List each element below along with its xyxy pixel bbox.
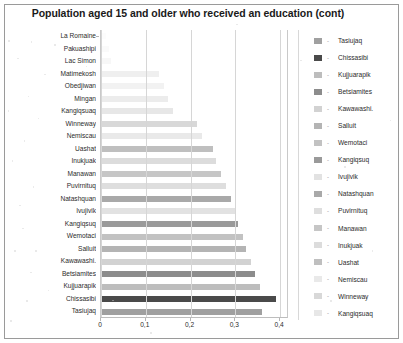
scan-noise-speckle: [35, 250, 37, 252]
bar-betsiamites[interactable]: [101, 271, 255, 277]
y-axis-label-wemotaci: Wemotaci: [22, 230, 96, 243]
x-axis-tick-label: 0: [98, 321, 102, 328]
legend-label: Uashat: [338, 259, 359, 266]
bar-row: [101, 305, 287, 318]
legend-dash-marker: -: [325, 225, 331, 231]
bar-kawawashi[interactable]: [101, 259, 251, 265]
bar-row: [101, 193, 287, 206]
legend-item-nemiscau[interactable]: -Nemiscau: [300, 271, 398, 288]
scan-noise-speckle: [92, 210, 94, 211]
scan-noise-speckle: [372, 250, 373, 252]
legend-item-inukjuak[interactable]: -Inukjuak: [300, 237, 398, 254]
legend-item-kawawashi[interactable]: -Kawawashi.: [300, 100, 398, 117]
legend-item-kangiqsuaq[interactable]: -Kangiqsuaq: [300, 305, 398, 322]
legend-item-salluit[interactable]: -Salluit: [300, 117, 398, 134]
legend-item-tasiujaq[interactable]: -Tasiujaq: [300, 32, 398, 49]
legend-dash-marker: -: [325, 208, 331, 214]
legend-color-swatch: [314, 191, 322, 197]
bar-row: [101, 218, 287, 231]
scan-noise-speckle: [28, 96, 29, 97]
y-axis-label-kujjuarapik: Kujjuarapik: [22, 280, 96, 293]
scan-noise-speckle: [330, 300, 332, 302]
scan-noise-speckle: [70, 132, 71, 134]
y-axis-label-uashat: Uashat: [22, 143, 96, 156]
legend-item-wemotaci[interactable]: -Wemotaci: [300, 134, 398, 151]
legend-label: Salluit: [338, 122, 356, 129]
bar-mingan[interactable]: [101, 96, 168, 102]
bar-kangiqsuaq[interactable]: [101, 108, 173, 114]
y-axis-label-tasiujaq: Tasiujaq: [22, 305, 96, 318]
bar-wemotaci[interactable]: [101, 234, 243, 240]
gridline-0-4: [280, 30, 281, 317]
bar-matimekosh[interactable]: [101, 71, 159, 77]
legend-color-swatch: [314, 225, 322, 231]
legend-item-natashquan[interactable]: -Natashquan: [300, 185, 398, 202]
bar-row: [101, 155, 287, 168]
bar-pakuashipi[interactable]: [101, 46, 109, 52]
plot-area: [100, 30, 288, 318]
legend-label: Kangiqsuq: [338, 156, 369, 163]
y-axis-label-nemiscau: Nemiscau: [22, 130, 96, 143]
bar-tasiujaq[interactable]: [101, 309, 262, 315]
legend-label: Natashquan: [338, 190, 374, 197]
legend-item-manawan[interactable]: -Manawan: [300, 220, 398, 237]
legend-item-winneway[interactable]: -Winneway: [300, 288, 398, 305]
legend-divider: [298, 30, 299, 320]
bar-winneway[interactable]: [101, 121, 197, 127]
bar-row: [101, 93, 287, 106]
x-axis-tick-label: 0,2: [185, 321, 194, 328]
y-axis-label-la-romaine: La Romaine: [22, 30, 96, 43]
legend-dash-marker: -: [325, 259, 331, 265]
scan-noise-speckle: [300, 60, 302, 61]
legend-item-puvirnituq[interactable]: -Puvirnituq: [300, 202, 398, 219]
scan-noise-speckle: [33, 186, 34, 188]
legend-color-swatch: [314, 310, 322, 316]
legend-item-betsiamites[interactable]: -Betsiamites: [300, 83, 398, 100]
legend-dash-marker: -: [325, 55, 331, 61]
gridline-0-2: [191, 30, 192, 317]
bar-manawan[interactable]: [101, 171, 221, 177]
bar-uashat[interactable]: [101, 146, 213, 152]
bar-salluit[interactable]: [101, 246, 246, 252]
x-axis-tick-mark: [100, 318, 101, 321]
legend-color-swatch: [314, 55, 322, 61]
legend-item-ivujivik[interactable]: -Ivujivik: [300, 168, 398, 185]
bar-natashquan[interactable]: [101, 196, 231, 202]
bar-lac-simon[interactable]: [101, 58, 111, 64]
legend-dash-marker: -: [325, 276, 331, 282]
legend-item-kangiqsuq[interactable]: -Kangiqsuq: [300, 151, 398, 168]
x-axis-tick-mark: [190, 318, 191, 321]
bar-row: [101, 255, 287, 268]
legend-item-kujjuarapik[interactable]: -Kujjuarapik: [300, 66, 398, 83]
bar-row: [101, 230, 287, 243]
bar-inukjuak[interactable]: [101, 158, 216, 164]
legend-label: Ivujivik: [338, 173, 358, 180]
bar-row: [101, 168, 287, 181]
chart-screenshot: Population aged 15 and older who receive…: [0, 0, 403, 343]
scan-noise-speckle: [22, 228, 24, 229]
bar-nemiscau[interactable]: [101, 133, 202, 139]
bar-kangiqsuq[interactable]: [101, 221, 238, 227]
legend-color-swatch: [314, 38, 322, 44]
x-axis-tick-mark: [145, 318, 146, 321]
bar-ivujivik[interactable]: [101, 208, 235, 214]
legend-color-swatch: [314, 174, 322, 180]
bar-chissasibi[interactable]: [101, 296, 276, 302]
legend-dash-marker: -: [325, 38, 331, 44]
y-axis-label-lac-simon: Lac Simon: [22, 55, 96, 68]
bar-obedjiwan[interactable]: [101, 83, 164, 89]
scan-noise-speckle: [60, 262, 62, 263]
legend-color-swatch: [314, 140, 322, 146]
scan-noise-speckle: [14, 250, 16, 252]
legend-item-chissasibi[interactable]: -Chissasibi: [300, 49, 398, 66]
legend-item-uashat[interactable]: -Uashat: [300, 254, 398, 271]
legend-label: Kangiqsuaq: [338, 310, 373, 317]
scan-noise-speckle: [150, 332, 152, 334]
y-axis-label-betsiamites: Betsiamites: [22, 268, 96, 281]
scan-noise-speckle: [38, 118, 39, 119]
bar-puvirnituq[interactable]: [101, 183, 226, 189]
scan-noise-speckle: [86, 66, 87, 67]
y-axis-label-salluit: Salluit: [22, 243, 96, 256]
y-axis-label-manawan: Manawan: [22, 168, 96, 181]
x-axis-tick-label: 0,4: [274, 321, 283, 328]
